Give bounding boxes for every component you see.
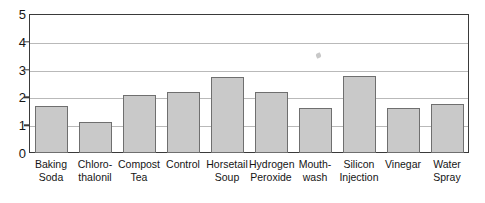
x-tick-label-line: wash: [293, 171, 337, 184]
x-tick-label: HydrogenPeroxide: [249, 158, 293, 184]
bar: [123, 95, 156, 153]
y-tick-label: 4: [4, 35, 26, 48]
x-tick-label-line: Water: [425, 158, 469, 171]
x-axis: BakingSodaChloro-thalonilCompostTeaContr…: [29, 158, 469, 203]
x-tick-label-line: Soup: [205, 171, 249, 184]
x-tick-label-line: Tea: [117, 171, 161, 184]
x-tick-label-line: Hydrogen: [249, 158, 293, 171]
x-tick-label: Mouth-wash: [293, 158, 337, 184]
x-tick-label-line: Horsetail: [205, 158, 249, 171]
bar-chart: 012345 BakingSodaChloro-thalonilCompostT…: [0, 0, 485, 203]
x-tick-label: Chloro-thalonil: [73, 158, 117, 184]
bar: [387, 108, 420, 153]
y-tick-label: 1: [4, 119, 26, 132]
x-tick-label-line: Spray: [425, 171, 469, 184]
x-tick-label-line: Soda: [29, 171, 73, 184]
bars-group: [29, 14, 469, 153]
x-tick-label: BakingSoda: [29, 158, 73, 184]
x-tick-label-line: Peroxide: [249, 171, 293, 184]
bar: [431, 104, 464, 153]
bar: [79, 122, 112, 153]
bar: [211, 77, 244, 153]
x-tick-label-line: Injection: [337, 171, 381, 184]
bar: [255, 92, 288, 153]
x-tick-label-line: Baking: [29, 158, 73, 171]
y-tick-label: 3: [4, 63, 26, 76]
x-tick-label-line: Silicon: [337, 158, 381, 171]
x-tick-label-line: Chloro-: [73, 158, 117, 171]
y-axis: 012345: [0, 0, 26, 203]
bar: [299, 108, 332, 153]
y-tick-label: 5: [4, 8, 26, 21]
y-tick-label: 0: [4, 147, 26, 160]
x-tick-label-line: Control: [161, 158, 205, 171]
bar: [167, 92, 200, 153]
x-tick-label: HorsetailSoup: [205, 158, 249, 184]
y-tick-label: 2: [4, 91, 26, 104]
x-tick-label: CompostTea: [117, 158, 161, 184]
x-tick-label: Vinegar: [381, 158, 425, 171]
bar: [35, 106, 68, 153]
x-tick-label: SiliconInjection: [337, 158, 381, 184]
x-tick-label-line: Vinegar: [381, 158, 425, 171]
x-tick-label-line: thalonil: [73, 171, 117, 184]
x-tick-label: Control: [161, 158, 205, 171]
x-tick-label-line: Compost: [117, 158, 161, 171]
x-tick-label: WaterSpray: [425, 158, 469, 184]
x-tick-label-line: Mouth-: [293, 158, 337, 171]
bar: [343, 76, 376, 153]
